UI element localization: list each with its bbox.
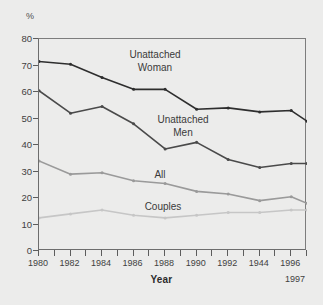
series-label-unattached-men-line1: Unattached: [138, 113, 228, 126]
data-point: [290, 109, 293, 112]
x-axis-tick-label: 1988: [154, 258, 174, 268]
x-axis-tick-label: 1992: [217, 258, 237, 268]
data-point: [69, 173, 72, 176]
data-point: [258, 166, 261, 169]
series-label-unattached-men: Unattached Men: [138, 113, 228, 139]
x-axis-tick-label: 1980: [28, 258, 48, 268]
x-axis-tick-mark: [259, 250, 260, 256]
series-label-couples: Couples: [128, 200, 198, 213]
data-point: [258, 211, 261, 214]
data-point: [132, 88, 135, 91]
data-point: [227, 193, 230, 196]
y-axis-tick-label: 0: [10, 245, 32, 256]
data-point: [69, 112, 72, 115]
data-point: [195, 190, 198, 193]
series-label-unattached-woman: Unattached Woman: [110, 48, 200, 74]
x-axis-tick-mark: [85, 250, 86, 256]
data-point: [306, 162, 308, 165]
x-axis-tick-label: 1990: [186, 258, 206, 268]
x-axis-tick-mark: [164, 250, 165, 256]
data-point: [195, 108, 198, 111]
series-label-unattached-woman-line1: Unattached: [110, 48, 200, 61]
x-axis-tick-label: 1944: [249, 258, 269, 268]
data-point: [101, 208, 104, 211]
data-point: [195, 141, 198, 144]
x-axis-tick-mark: [133, 250, 134, 256]
data-point: [69, 212, 72, 215]
data-point: [132, 179, 135, 182]
data-point: [227, 106, 230, 109]
x-axis-tick-mark: [70, 250, 71, 256]
data-point: [258, 110, 261, 113]
data-point: [101, 76, 104, 79]
data-point: [258, 199, 261, 202]
x-axis-tick-mark: [38, 250, 39, 256]
y-axis-unit-label: %: [26, 11, 34, 21]
data-point: [290, 208, 293, 211]
data-point: [227, 211, 230, 214]
data-point: [227, 158, 230, 161]
data-point: [101, 105, 104, 108]
x-axis-tick-mark: [211, 250, 212, 256]
y-axis-tick-label: 20: [10, 192, 32, 203]
x-axis-tick-mark: [54, 250, 55, 256]
data-point: [164, 88, 167, 91]
y-axis-tick-label: 40: [10, 139, 32, 150]
y-axis-tick-label: 50: [10, 112, 32, 123]
x-axis-tick-mark: [117, 250, 118, 256]
series-label-unattached-woman-line2: Woman: [110, 61, 200, 74]
data-point: [39, 216, 41, 219]
data-point: [39, 60, 41, 63]
x-axis-tick-mark: [196, 250, 197, 256]
series-label-all: All: [140, 168, 180, 181]
data-point: [164, 147, 167, 150]
y-axis-tick-label: 70: [10, 59, 32, 70]
y-axis-tick-label: 80: [10, 33, 32, 44]
x-axis-tick-mark: [290, 250, 291, 256]
data-point: [132, 214, 135, 217]
x-axis-tick-mark: [148, 250, 149, 256]
series-label-unattached-men-line2: Men: [138, 126, 228, 139]
x-axis-tick-mark: [306, 250, 307, 256]
data-point: [132, 122, 135, 125]
y-axis-tick-label: 10: [10, 218, 32, 229]
x-axis-title: Year: [0, 274, 323, 285]
x-axis-tick-mark: [243, 250, 244, 256]
x-axis-tick-mark: [274, 250, 275, 256]
data-point: [290, 195, 293, 198]
data-point: [195, 214, 198, 217]
data-point: [164, 216, 167, 219]
x-axis-tick-mark: [101, 250, 102, 256]
x-axis-tick-mark: [227, 250, 228, 256]
data-point: [290, 162, 293, 165]
x-axis-end-label: 1997: [285, 274, 305, 284]
x-axis-tick-label: 1986: [123, 258, 143, 268]
x-axis-tick-label: 1996: [280, 258, 300, 268]
y-axis-tick-label: 30: [10, 165, 32, 176]
data-point: [101, 171, 104, 174]
x-axis-tick-label: 1984: [91, 258, 111, 268]
x-axis-tick-mark: [180, 250, 181, 256]
y-axis-tick-label: 60: [10, 86, 32, 97]
chart-container: % 01020304050607080 19801982198419861988…: [0, 0, 323, 305]
x-axis-tick-label: 1982: [60, 258, 80, 268]
data-point: [306, 208, 308, 211]
data-point: [69, 63, 72, 66]
data-point: [164, 182, 167, 185]
